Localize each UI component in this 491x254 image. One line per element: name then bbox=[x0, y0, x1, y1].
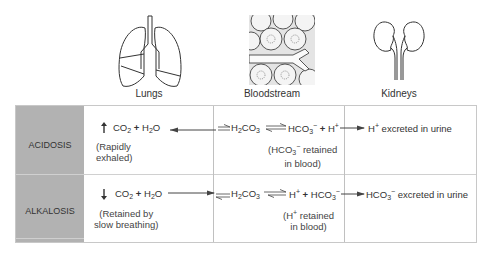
forward-arrow-icon-2 bbox=[341, 190, 365, 198]
alkalosis-lung-equation: CO2 + H2O bbox=[115, 188, 162, 200]
kidneys-icon bbox=[373, 18, 425, 80]
arrow-up-icon bbox=[101, 122, 107, 133]
alkalosis-blood-note: (H+ retained in blood) bbox=[283, 207, 334, 232]
kidneys-label: Kidneys bbox=[354, 88, 444, 99]
row-divider bbox=[16, 174, 476, 175]
alkalosis-kidney-text: HCO3− excreted in urine bbox=[366, 188, 468, 201]
alkalosis-blood-products: H+ + HCO3− bbox=[289, 188, 340, 201]
forward-arrow-icon bbox=[340, 124, 365, 132]
equilibrium-arrow-icon-2 bbox=[264, 189, 286, 198]
acidosis-blood-equation: H2CO3 bbox=[231, 122, 260, 134]
acidosis-lung-note: (Rapidlyexhaled) bbox=[96, 141, 132, 163]
bloodstream-icon bbox=[249, 15, 315, 85]
equilibrium-arrow-icon bbox=[266, 123, 286, 132]
acidosis-lung-equation: CO2 + H2O bbox=[113, 122, 160, 134]
alkalosis-lung-note: (Retained byslow breathing) bbox=[94, 208, 158, 230]
lungs-icon bbox=[115, 14, 185, 89]
acidosis-blood-note: (HCO3− retained in blood) bbox=[268, 141, 337, 169]
lungs-label: Lungs bbox=[104, 88, 194, 99]
reverse-arrow-icon bbox=[170, 124, 230, 134]
alkalosis-blood-equation: H2CO3 bbox=[231, 188, 260, 200]
row-label-acidosis: ACIDOSIS bbox=[16, 140, 84, 150]
arrow-down-icon bbox=[101, 189, 107, 200]
bottom-stripe bbox=[16, 238, 84, 239]
forward-long-arrow-icon bbox=[168, 190, 230, 200]
bloodstream-label: Bloodstream bbox=[227, 88, 317, 99]
row-label-alkalosis: ALKALOSIS bbox=[16, 206, 84, 216]
acidosis-blood-products: HCO3− + H+ bbox=[288, 122, 339, 135]
acidosis-kidney-text: H+ excreted in urine bbox=[368, 122, 452, 134]
